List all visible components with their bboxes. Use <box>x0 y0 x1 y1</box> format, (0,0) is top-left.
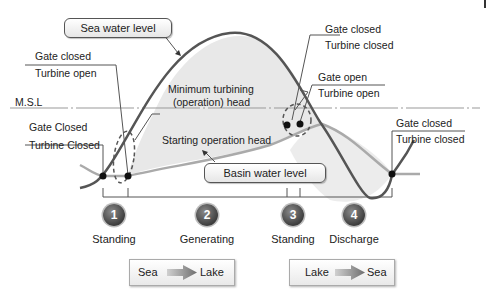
state-5-gate: Gate closed <box>396 117 452 129</box>
state-1-gate: Gate closed <box>35 50 91 62</box>
basin-water-level-callout: Basin water level <box>204 163 326 183</box>
step-4-badge: 4 <box>343 204 365 226</box>
step-3-badge: 3 <box>282 204 304 226</box>
right-arrow-icon <box>167 265 197 280</box>
step-2-label: Generating <box>167 233 247 245</box>
leader-gate-closed-turbine-open <box>25 65 128 175</box>
point-discharge-end <box>389 171 396 178</box>
right-arrow-icon <box>335 265 365 280</box>
point-standing-start <box>100 173 107 180</box>
state-3-gate: Gate closed <box>325 23 381 35</box>
state-4-gate: Gate open <box>318 71 367 83</box>
state-1-turbine: Turbine open <box>35 67 97 79</box>
state-3-turbine: Turbine closed <box>325 39 393 51</box>
step-2-badge: 2 <box>196 204 218 226</box>
step-1-label: Standing <box>74 233 154 245</box>
step-4-label: Discharge <box>314 233 394 245</box>
flow-1-to: Lake <box>200 266 224 278</box>
flow-lake-to-sea: Lake Sea <box>289 259 395 286</box>
state-2-turbine: Turbine Closed <box>29 139 100 151</box>
point-generating-start <box>125 173 132 180</box>
corner-mark <box>484 0 486 8</box>
min-turbining-label-1: Minimum turbining <box>168 83 254 95</box>
state-5-turbine: Turbine closed <box>396 133 464 145</box>
state-2-gate: Gate Closed <box>29 121 87 133</box>
sea-water-level-callout: Sea water level <box>64 18 172 38</box>
state-4-turbine: Turbine open <box>318 87 380 99</box>
flow-2-from: Lake <box>305 266 329 278</box>
msl-label: M.S.L <box>15 96 42 108</box>
flow-1-from: Sea <box>138 266 158 278</box>
starting-operation-head-label: Starting operation head <box>162 134 271 146</box>
point-discharge-start <box>297 121 304 128</box>
point-generating-end <box>284 122 291 129</box>
step-1-badge: 1 <box>103 204 125 226</box>
min-turbining-label-2: (operation) head <box>173 96 250 108</box>
tide-diagram-canvas <box>0 0 488 302</box>
flow-sea-to-lake: Sea Lake <box>129 259 235 286</box>
flow-2-to: Sea <box>367 266 387 278</box>
